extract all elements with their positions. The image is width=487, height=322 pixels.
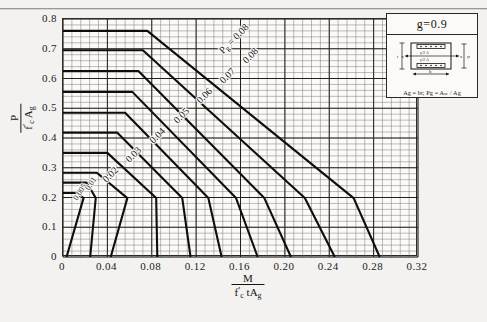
x-axis-title: M f′c tAg [231,272,264,301]
curve-0.005 [63,193,84,257]
y-tick-label: 0.5 [42,101,57,113]
svg-text:γ/2 A: γ/2 A [420,50,429,55]
x-tick-label: 0.04 [96,260,117,272]
x-tick-label: 0 [59,260,65,272]
svg-text:x: x [460,54,463,59]
x-tick-label: 0.28 [362,260,383,272]
x-tick-label: 0.32 [407,260,428,272]
legend-box: g=0.9 x x γ/2 A [386,13,478,98]
svg-text:γ/2 A: γ/2 A [420,57,429,62]
y-axis-title: P f′c Ag [8,103,37,132]
y-tick-label: 0.7 [42,42,57,54]
y-tick-label: 0.1 [42,220,57,232]
x-tick-label: 0.16 [229,260,250,272]
x-tick-label: 0.20 [273,260,294,272]
y-tick-label: 0.8 [42,12,57,24]
y-tick-label: 0 [51,250,57,262]
legend-note: Ag = bt; Pg = Aₛₜ / Ag [387,89,477,96]
legend-title: g=0.9 [387,14,477,35]
page-rule-shadow [0,9,487,10]
curve-0.07 [63,71,291,257]
x-axis-title-denominator: f′c tAg [231,284,264,300]
curve-pg [63,31,380,257]
y-axis-title-denominator: f′c Ag [21,103,37,132]
interaction-curves [63,19,418,257]
svg-text:γt: γt [467,54,471,59]
y-tick-label: 0.2 [42,191,57,203]
y-tick-label: 0.3 [42,161,57,173]
x-axis-title-numerator: M [231,272,264,284]
y-tick-label: 0.6 [42,72,57,84]
figure-root: P f′c Ag M f′c tAg 0.80.70.60.50.40.30.2… [0,0,487,322]
x-tick-label: 0.12 [185,260,206,272]
y-axis-title-numerator: P [8,103,20,132]
section-diagram-icon: x x γ/2 A γ/2 A t γt b [391,38,475,78]
svg-text:b: b [429,69,432,74]
x-tick-label: 0.24 [318,260,339,272]
plot-wrapper: 0.80.70.60.50.40.30.20.10 00.040.080.120… [62,18,417,256]
legend-body: x x γ/2 A γ/2 A t γt b [387,35,477,99]
x-tick-label: 0.08 [140,260,161,272]
plot-area [62,18,417,256]
svg-text:t: t [397,54,399,59]
y-tick-label: 0.4 [42,131,57,143]
